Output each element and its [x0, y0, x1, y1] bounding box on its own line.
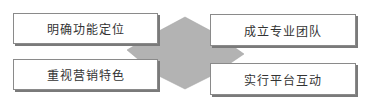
box-label: 成立专业团队 — [244, 22, 322, 39]
box-top-left: 明确功能定位 — [13, 13, 158, 44]
box-label: 明确功能定位 — [47, 20, 125, 37]
box-top-right: 成立专业团队 — [210, 14, 356, 46]
box-label: 实行平台互动 — [244, 71, 322, 88]
box-bottom-left: 重视营销特色 — [13, 59, 158, 90]
box-bottom-right: 实行平台互动 — [210, 63, 356, 95]
box-label: 重视营销特色 — [47, 66, 125, 83]
